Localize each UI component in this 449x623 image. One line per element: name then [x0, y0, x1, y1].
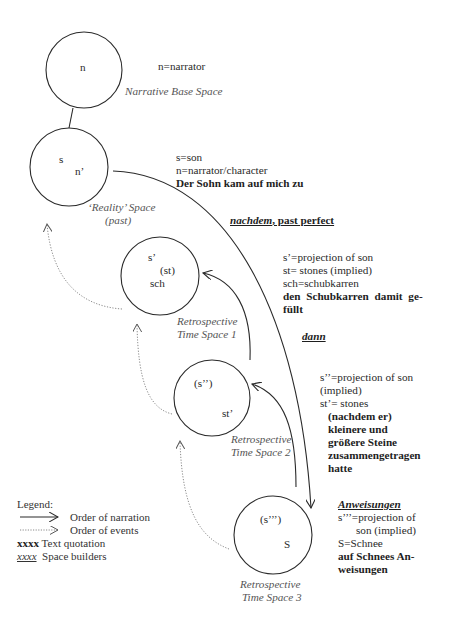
space-name: Retrospective [177, 315, 237, 328]
key-text: s’’’=projection of [338, 511, 416, 524]
circle-label: sch [150, 277, 165, 290]
text-quotation: auf Schnees An- [338, 550, 414, 563]
circle-label: s’ [148, 251, 156, 264]
space-builder-suffix: , past perfect [272, 214, 334, 226]
key-text: st= stones (implied) [283, 264, 372, 277]
legend-quotation-label: Text quotation [42, 537, 106, 549]
text-quotation: Der Sohn kam auf mich zu [176, 177, 304, 190]
event-arrow-retro3-to-retro2 [180, 441, 229, 549]
key-text: st’= stones [320, 397, 368, 410]
space-builder: dann [302, 330, 326, 343]
space-name: Retrospective [240, 578, 300, 591]
space-name: Time Space 1 [177, 328, 237, 341]
space-name: Time Space 3 [242, 591, 302, 604]
circle-label: S [284, 538, 290, 551]
circle-label: n’ [75, 165, 84, 178]
event-arrow-retro1-to-reality [47, 224, 122, 309]
key-text: n=narrator [158, 60, 205, 73]
key-text: n=narrator/character [176, 164, 267, 177]
key-text: s=son [176, 151, 202, 164]
space-circle-retro-2 [174, 360, 250, 436]
legend-quotation-row: xxxx Text quotation [17, 537, 105, 550]
space-builder: Anweisungen [338, 498, 401, 511]
legend-builder-label: Space builders [42, 550, 106, 562]
legend-quotation-sample: xxxx [17, 537, 39, 549]
space-builder: nachdem, past perfect [230, 214, 334, 227]
space-name: Time Space 2 [231, 446, 291, 459]
legend-builder-sample: xxxx [17, 550, 37, 562]
space-name: Narrative Base Space [125, 85, 223, 98]
text-quotation: kleinere und [328, 423, 388, 436]
space-circle-reality [30, 128, 108, 206]
space-name: (past) [105, 214, 131, 227]
space-name: ‘Reality’ Space [88, 201, 155, 214]
text-quotation: den Schubkarren damit ge- [283, 290, 423, 303]
circle-label: st’ [222, 407, 233, 420]
circle-label: n [80, 61, 86, 74]
text-quotation: größere Steine [328, 436, 397, 449]
circle-label: (s’’) [194, 377, 212, 390]
text-quotation: hatte [328, 462, 352, 475]
circle-label: (st) [160, 264, 175, 277]
key-text: sch=schubkarren [283, 277, 359, 290]
legend-events-label: Order of events [70, 524, 138, 537]
key-text: (implied) [320, 384, 362, 397]
text-quotation: füllt [283, 303, 303, 316]
key-text: S=Schnee [338, 537, 383, 550]
space-circle-retro-3 [234, 496, 312, 574]
key-text: son (implied) [356, 524, 416, 537]
legend-title: Legend: [17, 498, 53, 511]
base-reality-connector [69, 108, 73, 128]
circle-label: s [59, 153, 63, 166]
text-quotation: weisungen [338, 563, 388, 576]
legend-narration-label: Order of narration [70, 511, 150, 524]
circle-label: (s’’’) [260, 513, 281, 526]
text-quotation: zusammengetragen [328, 449, 421, 462]
event-arrow-retro2-to-retro1 [137, 324, 172, 414]
space-name: Retrospective [231, 433, 291, 446]
space-builder-word: nachdem [230, 214, 272, 226]
legend-builder-row: xxxx Space builders [17, 550, 106, 563]
key-text: s’=projection of son [283, 251, 373, 264]
key-text: s’’=projection of son [320, 371, 413, 384]
text-quotation: (nachdem er) [328, 410, 392, 423]
